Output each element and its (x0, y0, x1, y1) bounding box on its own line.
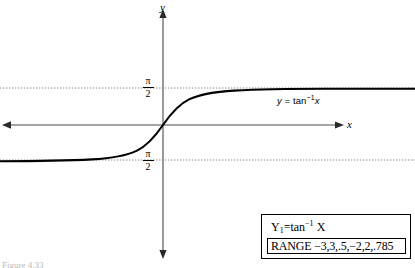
y-axis-bottom-arrowhead (159, 250, 166, 259)
upper-asymptote-numerator: π (138, 76, 158, 86)
curve-equation-exponent: −1 (307, 94, 315, 101)
y-axis-label: y (160, 2, 165, 13)
lower-asymptote-label: π 2 (138, 149, 158, 172)
curve-equation-operator: = tan (282, 95, 307, 106)
calculator-range-line: RANGE −3,3,.5,−2,2,.785 (267, 238, 406, 254)
calculator-y1-subscript: 1 (280, 226, 284, 235)
curve-equation-argument: x (315, 95, 320, 106)
calculator-screen-box: Y1=tan−1 X RANGE −3,3,.5,−2,2,.785 (261, 214, 411, 259)
curve-equation-label: y = tan−1x (277, 96, 320, 106)
calculator-y1-equals: =tan (284, 220, 305, 234)
x-axis-left-arrowhead (2, 121, 11, 129)
calculator-y1-prefix: Y (271, 220, 280, 234)
x-axis-right-arrowhead (335, 122, 344, 129)
calculator-y1-suffix: X (314, 220, 326, 234)
lower-asymptote-denominator: 2 (138, 162, 158, 172)
calculator-y1-line: Y1=tan−1 X (271, 220, 325, 235)
figure-root: y x π 2 π 2 y = tan−1x Y1=tan−1 X RANGE … (0, 0, 415, 268)
upper-asymptote-denominator: 2 (138, 89, 158, 99)
calculator-y1-exponent: −1 (305, 219, 314, 228)
lower-asymptote-numerator: π (138, 149, 158, 159)
figure-caption: Figure 4.33 (2, 260, 44, 268)
upper-asymptote-label: π 2 (138, 76, 158, 99)
x-axis-label: x (347, 119, 352, 130)
